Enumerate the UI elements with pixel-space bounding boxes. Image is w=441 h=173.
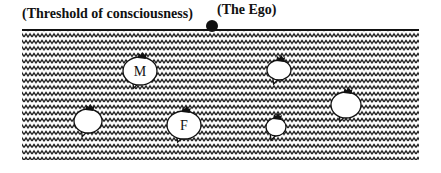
bubble-label: M bbox=[134, 64, 147, 79]
bubble-label: F bbox=[180, 118, 188, 133]
unconscious-diagram: MF bbox=[0, 0, 441, 173]
ego-label: (The Ego) bbox=[217, 2, 277, 18]
unconscious-region bbox=[22, 31, 419, 160]
wave-pattern bbox=[22, 31, 419, 160]
ego-dot bbox=[206, 20, 218, 32]
threshold-label: (Threshold of consciousness) bbox=[22, 6, 193, 22]
